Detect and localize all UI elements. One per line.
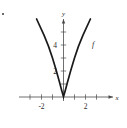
y-axis-name: y xyxy=(61,10,66,18)
y-axis-arrow-icon xyxy=(62,19,65,24)
x-tick-label-pos2: 2 xyxy=(84,102,88,111)
x-axis-name: x xyxy=(114,94,119,102)
x-tick-label-neg2: -2 xyxy=(38,102,44,111)
y-tick-label-4: 4 xyxy=(53,41,57,50)
x-axis-arrow-icon xyxy=(109,95,114,98)
curve-label-f: f xyxy=(92,40,96,49)
parabola-graph: x y -2 2 2 4 f xyxy=(0,0,127,128)
